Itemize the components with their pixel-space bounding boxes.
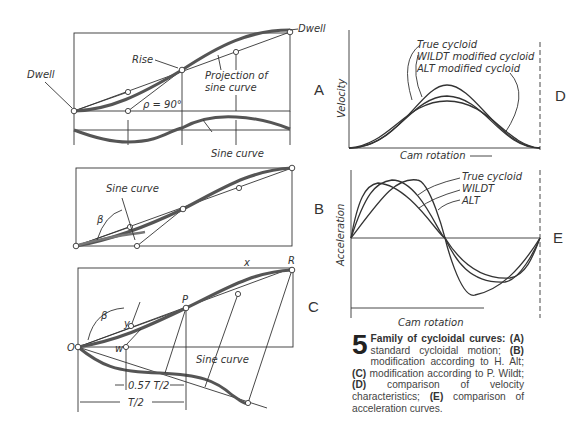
sine-curve-a-label: Sine curve bbox=[211, 148, 264, 159]
caption-text-a: standard cycloidal motion; bbox=[371, 345, 510, 356]
caption-key-b: (B) bbox=[510, 345, 524, 356]
e-xlabel: Cam rotation bbox=[398, 317, 463, 328]
caption-text-b: modification according to H. Alt; bbox=[371, 356, 524, 367]
panel-d-letter: D bbox=[555, 87, 566, 104]
caption-key-d: (D) bbox=[352, 379, 366, 390]
sine-curve-c-label: Sine curve bbox=[196, 354, 249, 365]
e-legend-true: True cycloid bbox=[462, 171, 523, 182]
caption-key-c: (C) bbox=[352, 368, 366, 379]
e-legend-wildt: WILDT bbox=[462, 183, 495, 194]
caption-title: Family of cycloidal curves: bbox=[371, 333, 506, 344]
caption-key-e: (E) bbox=[430, 391, 444, 402]
caption-key-a: (A) bbox=[510, 333, 524, 344]
d-xlabel: Cam rotation bbox=[400, 150, 465, 161]
point-w-label: w bbox=[115, 343, 124, 354]
figure-number: 5 bbox=[352, 333, 368, 357]
panel-c-letter: C bbox=[308, 298, 319, 315]
panel-a bbox=[45, 29, 298, 145]
panel-c bbox=[75, 267, 295, 412]
projection-label-2: sine curve bbox=[205, 82, 257, 93]
d-legend-true: True cycloid bbox=[417, 39, 478, 50]
panel-b bbox=[73, 165, 295, 249]
panel-b-letter: B bbox=[314, 200, 324, 217]
point-r-label: R bbox=[288, 255, 295, 266]
point-p-label: P bbox=[182, 294, 189, 305]
sine-curve-b-label: Sine curve bbox=[106, 183, 159, 194]
e-ylabel: Acceleration bbox=[335, 204, 346, 267]
rise-label: Rise bbox=[132, 54, 153, 65]
figure-caption: 5 Family of cycloidal curves: (A) standa… bbox=[352, 333, 524, 414]
dwell-right-label: Dwell bbox=[298, 23, 326, 34]
chart-e bbox=[351, 170, 540, 318]
point-o-label: O bbox=[67, 342, 75, 353]
beta-c-label: β bbox=[100, 310, 108, 321]
e-legend-alt: ALT bbox=[461, 195, 481, 206]
panel-a-letter: A bbox=[314, 81, 324, 98]
beta-b-label: β bbox=[96, 214, 104, 225]
point-x-label: x bbox=[243, 257, 250, 268]
angle-label: ρ = 90° bbox=[143, 99, 182, 110]
dimension-057-label: 0.57 T/2 bbox=[128, 380, 169, 391]
caption-text-c: modification according to P. Wildt; bbox=[366, 368, 524, 379]
panel-e-letter: E bbox=[553, 229, 563, 246]
dwell-left-label: Dwell bbox=[27, 69, 55, 80]
d-ylabel: Velocity bbox=[336, 77, 347, 118]
d-legend-wildt: WILDT modified cycloid bbox=[417, 51, 535, 62]
dimension-t2-label: T/2 bbox=[128, 397, 144, 408]
d-legend-alt: ALT modified cycloid bbox=[416, 63, 521, 74]
projection-label: Projection of bbox=[205, 70, 269, 81]
point-y-label: y bbox=[123, 318, 131, 329]
